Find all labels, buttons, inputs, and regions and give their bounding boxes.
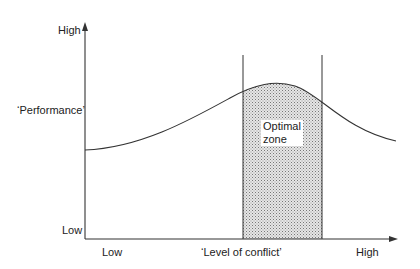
y-axis-high-label: High (58, 24, 81, 36)
x-axis-high-label: High (356, 246, 379, 258)
x-axis-title: ‘Level of conflict’ (201, 246, 282, 258)
x-axis-arrow-icon (389, 236, 398, 242)
optimal-zone-label-line2: zone (263, 133, 301, 146)
y-axis-arrow-icon (82, 22, 88, 31)
y-axis-title: ‘Performance’ (17, 104, 85, 116)
performance-curve (85, 83, 396, 150)
y-axis-low-label: Low (62, 224, 82, 236)
x-axis-low-label: Low (102, 246, 122, 258)
optimal-zone-label: Optimal zone (261, 120, 303, 146)
optimal-zone-label-line1: Optimal (263, 120, 301, 133)
optimal-zone-shading (85, 83, 396, 239)
